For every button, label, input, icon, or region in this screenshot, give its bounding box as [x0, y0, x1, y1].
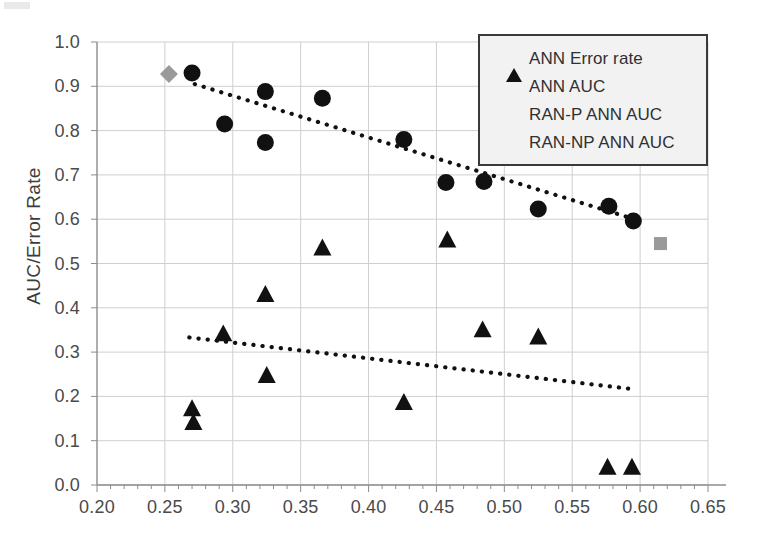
data-point-ann-auc — [625, 212, 642, 229]
data-point-ran-p-ann-auc — [160, 65, 178, 83]
y-axis-tick-label: 1.0 — [18, 32, 80, 53]
data-point-ann-error-rate — [214, 324, 232, 341]
x-axis-tick-label: 0.65 — [690, 497, 726, 518]
data-point-ann-auc — [395, 131, 412, 148]
y-axis-title: AUC/Error Rate — [23, 156, 45, 316]
y-axis-tick-label: 0.2 — [18, 386, 80, 407]
chart-figure: 0.00.10.20.30.40.50.60.70.80.91.00.200.2… — [0, 0, 765, 548]
x-axis-tick-label: 0.55 — [554, 497, 590, 518]
circle-marker-icon — [506, 79, 522, 95]
x-axis-tick-label: 0.50 — [486, 497, 522, 518]
data-point-ann-auc — [257, 134, 274, 151]
legend-entry-label: RAN-P ANN AUC — [529, 105, 662, 125]
data-point-ann-auc — [184, 65, 201, 82]
legend-entry-label: ANN AUC — [529, 77, 605, 97]
series-ran-p-ann-auc — [160, 65, 178, 83]
data-point-ran-np-ann-auc — [654, 237, 667, 250]
data-point-ann-error-rate — [258, 366, 276, 383]
legend-entry[interactable]: ANN AUC — [506, 73, 694, 101]
diamond-marker-icon — [506, 107, 522, 123]
legend-entry-label: ANN Error rate — [529, 49, 643, 69]
data-point-ann-auc — [530, 201, 547, 218]
data-point-ann-auc — [600, 198, 617, 215]
data-point-ann-auc — [216, 115, 233, 132]
y-axis-tick-label: 0.1 — [18, 430, 80, 451]
x-axis-tick-label: 0.25 — [147, 497, 183, 518]
data-point-ann-auc — [475, 173, 492, 190]
x-axis-tick-label: 0.30 — [215, 497, 251, 518]
square-marker-icon — [506, 135, 522, 151]
data-point-ann-error-rate — [256, 285, 274, 302]
y-axis-tick-label: 0.8 — [18, 120, 80, 141]
y-axis-tick-label: 0.3 — [18, 342, 80, 363]
legend-entry[interactable]: ANN Error rate — [506, 45, 694, 73]
data-point-ann-auc — [257, 83, 274, 100]
data-point-ann-error-rate — [183, 399, 201, 416]
trendline — [189, 337, 634, 389]
x-axis-tick-label: 0.45 — [419, 497, 455, 518]
data-point-ann-error-rate — [313, 238, 331, 255]
series-ran-np-ann-auc — [654, 237, 667, 250]
y-axis-tick-label: 0.9 — [18, 76, 80, 97]
y-axis-tick-label: 0.0 — [18, 475, 80, 496]
data-point-ann-auc — [314, 90, 331, 107]
legend-entry[interactable]: RAN-NP ANN AUC — [506, 129, 694, 157]
triangle-marker-icon — [506, 51, 522, 67]
legend-entry-label: RAN-NP ANN AUC — [529, 133, 675, 153]
x-axis-tick-label: 0.60 — [622, 497, 658, 518]
data-point-ann-auc — [437, 174, 454, 191]
triangle-marker-icon-glyph — [506, 51, 522, 82]
data-point-ann-error-rate — [474, 320, 492, 337]
x-axis-tick-label: 0.35 — [283, 497, 319, 518]
chart-legend: ANN Error rateANN AUCRAN-P ANN AUCRAN-NP… — [478, 34, 708, 166]
data-point-ann-error-rate — [395, 393, 413, 410]
data-point-ann-error-rate — [598, 458, 616, 475]
x-axis-tick-label: 0.20 — [79, 497, 115, 518]
x-axis-tick-label: 0.40 — [351, 497, 387, 518]
data-point-ann-error-rate — [623, 458, 641, 475]
data-point-ann-error-rate — [438, 231, 456, 248]
legend-entry[interactable]: RAN-P ANN AUC — [506, 101, 694, 129]
data-point-ann-error-rate — [529, 328, 547, 345]
